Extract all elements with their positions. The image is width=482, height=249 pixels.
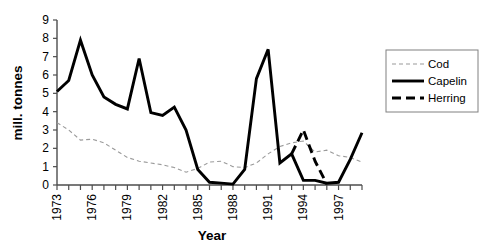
x-axis-ticks xyxy=(57,185,362,190)
y-tick-label: 4 xyxy=(42,105,49,119)
x-tick-label: 1985 xyxy=(191,194,205,221)
y-tick-label: 5 xyxy=(42,86,49,100)
legend-label-herring: Herring xyxy=(428,92,466,104)
fisheries-biomass-line-chart: 0123456789 19731976197919821985198819911… xyxy=(0,0,482,249)
x-tick-label: 1994 xyxy=(296,194,310,221)
y-axis-tick-labels: 0123456789 xyxy=(42,13,49,192)
y-tick-label: 0 xyxy=(42,178,49,192)
y-axis-title: mill. tonnes xyxy=(10,65,25,140)
y-tick-label: 6 xyxy=(42,68,49,82)
y-tick-label: 2 xyxy=(42,141,49,155)
legend-label-cod: Cod xyxy=(428,58,449,70)
x-axis-title: Year xyxy=(198,228,227,243)
y-tick-label: 3 xyxy=(42,123,49,137)
x-tick-label: 1997 xyxy=(332,194,346,221)
legend-label-capelin: Capelin xyxy=(428,75,467,87)
x-tick-label: 1988 xyxy=(226,194,240,221)
y-tick-label: 1 xyxy=(42,160,49,174)
x-axis-tick-labels: 197319761979198219851988199119941997 xyxy=(50,194,346,221)
x-tick-label: 1982 xyxy=(156,194,170,221)
y-tick-label: 7 xyxy=(42,50,49,64)
chart-canvas: 0123456789 19731976197919821985198819911… xyxy=(0,0,482,249)
y-tick-label: 9 xyxy=(42,13,49,27)
y-tick-label: 8 xyxy=(42,31,49,45)
x-tick-label: 1976 xyxy=(85,194,99,221)
x-tick-label: 1979 xyxy=(120,194,134,221)
legend: Cod Capelin Herring xyxy=(386,50,478,112)
x-tick-label: 1991 xyxy=(261,194,275,221)
series-line-herring xyxy=(292,130,327,184)
x-tick-label: 1973 xyxy=(50,194,64,221)
